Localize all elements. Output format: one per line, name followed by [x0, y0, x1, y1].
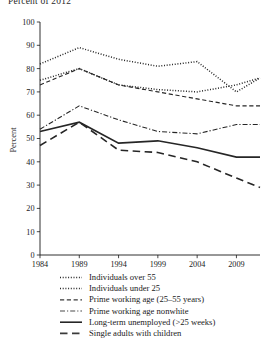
legend-label-2: Individuals under 25: [89, 283, 160, 293]
y-tick-label: 40: [26, 158, 34, 167]
x-tick-label: 2009: [228, 260, 244, 269]
y-tick-label: 10: [26, 228, 34, 237]
y-tick-label: 20: [26, 204, 34, 213]
x-tick-label: 1989: [71, 260, 87, 269]
y-tick-label: 70: [26, 88, 34, 97]
y-tick-label: 100: [22, 18, 34, 27]
y-tick-label: 50: [26, 134, 34, 143]
figure-container: Percent of 2012 0102030405060708090100 1…: [0, 0, 267, 347]
series-line-4: [40, 106, 260, 134]
legend-label-1: Individuals over 55: [89, 272, 156, 282]
x-tick-label: 1994: [110, 260, 126, 269]
x-tick-label: 1984: [32, 260, 48, 269]
y-tick-label: 30: [26, 181, 34, 190]
legend-label-6: Single adults with children: [89, 328, 182, 338]
x-axis: 198419891994199920042009: [32, 255, 260, 269]
series-layer: [40, 48, 260, 188]
y-tick-label: 80: [26, 65, 34, 74]
y-tick-label: 60: [26, 111, 34, 120]
x-tick-label: 2004: [189, 260, 205, 269]
line-chart: 0102030405060708090100 19841989199419992…: [0, 0, 267, 347]
legend-label-3: Prime working age (25–55 years): [89, 294, 204, 304]
figure-title-clipped: Percent of 2012: [8, 0, 71, 6]
series-line-2: [40, 69, 260, 92]
chart-legend: Individuals over 55Individuals under 25P…: [60, 272, 215, 338]
y-tick-label: 90: [26, 41, 34, 50]
legend-label-5: Long-term unemployed (>25 weeks): [89, 317, 215, 327]
series-line-1: [40, 48, 260, 92]
y-axis: 0102030405060708090100: [22, 18, 40, 260]
y-tick-label: 0: [30, 251, 34, 260]
legend-label-4: Prime working age nonwhite: [89, 306, 189, 316]
y-axis-label: Percent: [9, 127, 18, 153]
x-tick-label: 1999: [150, 260, 166, 269]
